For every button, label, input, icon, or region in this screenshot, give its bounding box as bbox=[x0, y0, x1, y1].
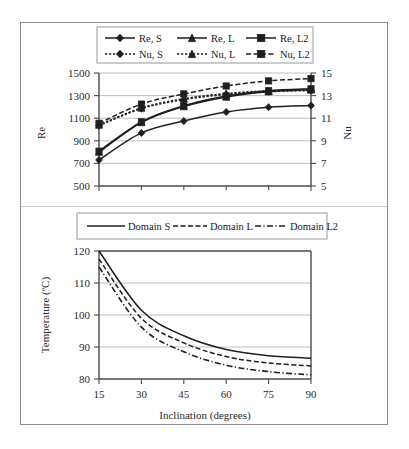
top-series-group bbox=[95, 76, 314, 164]
temperature-panel: Domain S Domain L Domain L2 bbox=[21, 207, 387, 425]
bottom-y-axis-title: Temperature (ºC) bbox=[39, 277, 52, 354]
bottom-x-ticks: 15 30 45 60 75 90 bbox=[94, 379, 318, 400]
top-left-ticks: 1500 1300 1100 900 700 500 bbox=[68, 67, 99, 192]
x-tick-label: 15 bbox=[94, 388, 106, 400]
y-tick-label: 500 bbox=[74, 180, 91, 192]
top-y2-axis-title: Nu bbox=[341, 126, 353, 140]
legend-label: Re, S bbox=[139, 33, 162, 44]
y-tick-label: 80 bbox=[79, 373, 91, 385]
re-nu-chart: Re, S Re, L Re, L2 Nu, S Nu, L bbox=[21, 23, 387, 206]
temperature-chart: Domain S Domain L Domain L2 bbox=[21, 207, 387, 424]
legend-label: Domain L2 bbox=[290, 221, 338, 232]
legend-label: Domain L bbox=[210, 221, 253, 232]
y2-tick-label: 7 bbox=[321, 157, 327, 169]
bottom-x-axis-title: Inclination (degrees) bbox=[159, 409, 251, 422]
y2-tick-label: 11 bbox=[321, 112, 332, 124]
y-tick-label: 110 bbox=[74, 277, 91, 289]
legend-label: Nu, L bbox=[211, 49, 236, 60]
legend-label: Domain S bbox=[128, 221, 170, 232]
square-marker-icon bbox=[258, 50, 265, 57]
y-tick-label: 1500 bbox=[68, 67, 91, 79]
x-tick-label: 90 bbox=[306, 388, 318, 400]
x-tick-label: 60 bbox=[221, 388, 233, 400]
top-x-ticks bbox=[99, 186, 311, 191]
y2-tick-label: 5 bbox=[321, 180, 327, 192]
bottom-y-ticks: 120 110 100 90 80 bbox=[74, 245, 100, 385]
x-tick-label: 75 bbox=[263, 388, 275, 400]
figure-frame: Re, S Re, L Re, L2 Nu, S Nu, L bbox=[20, 22, 388, 425]
y-tick-label: 90 bbox=[79, 341, 91, 353]
re-nu-panel: Re, S Re, L Re, L2 Nu, S Nu, L bbox=[21, 23, 387, 207]
y2-tick-label: 13 bbox=[321, 90, 333, 102]
y-tick-label: 700 bbox=[74, 157, 91, 169]
x-tick-label: 45 bbox=[178, 388, 190, 400]
y2-tick-label: 15 bbox=[321, 67, 333, 79]
y-tick-label: 120 bbox=[74, 245, 91, 257]
y-tick-label: 1300 bbox=[68, 90, 91, 102]
x-tick-label: 30 bbox=[136, 388, 148, 400]
y-tick-label: 100 bbox=[74, 309, 91, 321]
legend-label: Nu, L2 bbox=[280, 49, 310, 60]
top-y-axis-title: Re bbox=[35, 127, 47, 139]
y-tick-label: 900 bbox=[74, 135, 91, 147]
y-tick-label: 1100 bbox=[68, 112, 90, 124]
legend-label: Nu, S bbox=[139, 49, 163, 60]
bottom-series-group bbox=[99, 251, 311, 375]
y2-tick-label: 9 bbox=[321, 135, 327, 147]
top-gridlines bbox=[99, 73, 311, 163]
legend-label: Re, L2 bbox=[280, 33, 309, 44]
square-marker-icon bbox=[258, 34, 265, 41]
legend-label: Re, L bbox=[211, 33, 234, 44]
